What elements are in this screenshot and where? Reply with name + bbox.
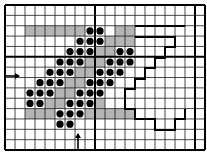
dot <box>106 69 113 76</box>
shaded-cell <box>95 98 105 108</box>
shaded-cell <box>25 26 35 36</box>
shaded-cell <box>45 109 55 119</box>
shaded-cell <box>85 109 95 119</box>
dot <box>46 89 53 96</box>
dot <box>26 100 33 107</box>
shaded-cell <box>55 98 65 108</box>
shaded-cell <box>45 26 55 36</box>
dot <box>56 110 63 117</box>
shaded-cell <box>115 36 125 46</box>
dot <box>76 48 83 55</box>
dot <box>116 58 123 65</box>
shaded-cell <box>85 67 95 77</box>
dot <box>56 79 63 86</box>
dot <box>66 121 73 128</box>
dot <box>66 58 73 65</box>
shaded-cell <box>95 57 105 67</box>
dot <box>76 89 83 96</box>
dot <box>116 48 123 55</box>
shaded-cell <box>75 78 85 88</box>
dot <box>126 58 133 65</box>
shaded-cell <box>125 26 135 36</box>
dot <box>56 121 63 128</box>
shaded-cell <box>75 26 85 36</box>
dot <box>66 110 73 117</box>
dot <box>86 79 93 86</box>
dot <box>116 69 123 76</box>
shaded-cell <box>55 26 65 36</box>
dot <box>126 48 133 55</box>
shaded-cell <box>25 109 35 119</box>
shaded-cell <box>125 36 135 46</box>
shaded-cell <box>35 109 45 119</box>
shaded-cell <box>105 46 115 56</box>
shaded-cell <box>75 67 85 77</box>
shaded-cell <box>105 36 115 46</box>
dot <box>86 89 93 96</box>
dot <box>96 69 103 76</box>
dot <box>76 100 83 107</box>
dot <box>66 48 73 55</box>
shaded-cell <box>105 109 115 119</box>
shaded-cell <box>85 57 95 67</box>
shaded-cell <box>55 88 65 98</box>
dot <box>36 89 43 96</box>
shaded-cell <box>115 109 125 119</box>
dot <box>56 58 63 65</box>
dot <box>86 27 93 34</box>
dot <box>66 69 73 76</box>
dot <box>106 79 113 86</box>
shaded-cell <box>95 46 105 56</box>
shaded-cell <box>65 78 75 88</box>
dot <box>66 100 73 107</box>
dot <box>86 100 93 107</box>
dot <box>86 48 93 55</box>
shaded-cell <box>95 109 105 119</box>
dot <box>96 38 103 45</box>
dot <box>26 89 33 96</box>
dot <box>36 79 43 86</box>
dot <box>96 89 103 96</box>
shaded-cell <box>125 109 135 119</box>
dot <box>76 38 83 45</box>
grid-diagram <box>0 0 207 153</box>
dot <box>36 100 43 107</box>
dot <box>76 110 83 117</box>
dot <box>46 79 53 86</box>
dot <box>86 38 93 45</box>
dot <box>76 58 83 65</box>
shaded-cell <box>65 88 75 98</box>
dot <box>96 27 103 34</box>
dot <box>106 58 113 65</box>
dot <box>56 69 63 76</box>
dot <box>96 79 103 86</box>
shaded-cell <box>115 26 125 36</box>
dot <box>46 69 53 76</box>
shaded-cell <box>45 98 55 108</box>
shaded-cell <box>65 26 75 36</box>
shaded-cell <box>35 26 45 36</box>
